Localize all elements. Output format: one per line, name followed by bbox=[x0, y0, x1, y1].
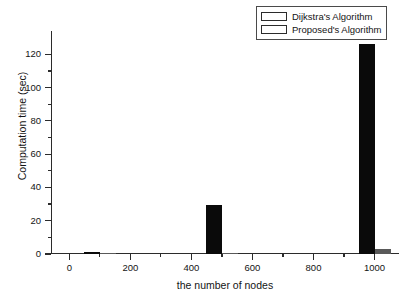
x-tick-400 bbox=[191, 254, 192, 260]
x-tick-600 bbox=[252, 254, 253, 260]
x-tick-label-800: 800 bbox=[294, 262, 334, 273]
bars-layer bbox=[51, 31, 399, 254]
bar-chart-figure: Dijkstra's Algorithm Proposed's Algorith… bbox=[0, 0, 409, 299]
x-tick-minor-100 bbox=[99, 254, 100, 257]
legend-entry-dijkstra: Dijkstra's Algorithm bbox=[261, 10, 381, 23]
x-tick-200 bbox=[130, 254, 131, 260]
bar-dijkstra-500 bbox=[206, 205, 222, 254]
legend-swatch-dijkstra bbox=[261, 12, 287, 21]
x-tick-label-600: 600 bbox=[232, 262, 272, 273]
bar-proposed-1000 bbox=[375, 249, 391, 254]
y-tick-label-0: 0 bbox=[11, 248, 41, 259]
x-tick-minor-300 bbox=[160, 254, 161, 257]
x-tick-label-400: 400 bbox=[171, 262, 211, 273]
x-tick-minor-900 bbox=[343, 254, 344, 257]
x-axis-title: the number of nodes bbox=[51, 279, 399, 291]
x-tick-label-200: 200 bbox=[110, 262, 150, 273]
x-tick-label-0: 0 bbox=[49, 262, 89, 273]
x-tick-label-1000: 1000 bbox=[355, 262, 395, 273]
bar-proposed-100 bbox=[100, 253, 116, 254]
x-tick-800 bbox=[313, 254, 314, 260]
legend-label-dijkstra: Dijkstra's Algorithm bbox=[292, 11, 372, 22]
x-tick-minor-700 bbox=[282, 254, 283, 257]
bar-dijkstra-1000 bbox=[359, 44, 375, 254]
bar-proposed-500 bbox=[222, 253, 238, 254]
x-tick-minor-500 bbox=[221, 254, 222, 257]
bar-dijkstra-100 bbox=[84, 252, 100, 254]
y-axis-title: Computation time (sec) bbox=[16, 26, 28, 226]
x-tick-1000 bbox=[374, 254, 375, 260]
x-tick-0 bbox=[69, 254, 70, 260]
